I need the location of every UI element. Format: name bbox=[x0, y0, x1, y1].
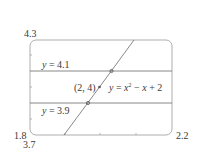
point-2-4 bbox=[98, 86, 101, 89]
graph-canvas bbox=[0, 0, 200, 154]
ymin-label: 3.7 bbox=[23, 140, 36, 150]
eq-rest: = 4.1 bbox=[46, 59, 69, 70]
minus: − bbox=[132, 82, 143, 93]
eq-rest: = 3.9 bbox=[46, 105, 69, 116]
label-y-3-9: y = 3.9 bbox=[42, 106, 70, 116]
plus-two: + 2 bbox=[147, 82, 163, 93]
label-curve-equation: y = x2 − x + 2 bbox=[109, 80, 162, 93]
ymax-label: 4.3 bbox=[24, 29, 37, 39]
label-point-2-4: (2, 4) bbox=[74, 83, 96, 93]
label-y-4-1: y = 4.1 bbox=[42, 60, 70, 70]
xmax-label: 2.2 bbox=[176, 131, 189, 141]
equals: = bbox=[113, 82, 124, 93]
